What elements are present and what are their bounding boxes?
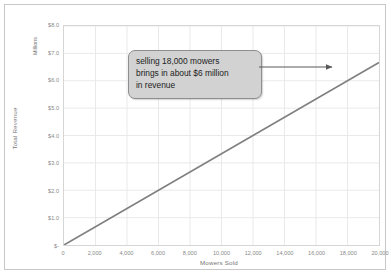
x-axis-title: Mowers Sold [59, 259, 379, 266]
x-axis-tick: 20,000 [363, 250, 391, 256]
y-axis-tick: $8.0 [39, 22, 59, 28]
x-axis-tick: 6,000 [141, 250, 175, 256]
y-axis-tick-labels: $-$1.0$2.0$3.0$4.0$5.0$6.0$7.0$8.0 [37, 5, 59, 275]
y-axis-title: Total Revenue [7, 5, 21, 251]
chart-frame: Total Revenue Millions $-$1.0$2.0$3.0$4.… [4, 4, 386, 270]
y-axis-tick: $6.0 [39, 77, 59, 83]
callout-line-3: in revenue [136, 80, 254, 92]
y-axis-tick: $7.0 [39, 50, 59, 56]
y-axis-tick: $2.0 [39, 188, 59, 194]
x-axis-tick: 12,000 [236, 250, 270, 256]
y-axis-tick: $3.0 [39, 160, 59, 166]
x-axis-tick: 16,000 [300, 250, 334, 256]
x-axis-tick: 2,000 [78, 250, 112, 256]
y-axis-tick: $4.0 [39, 133, 59, 139]
x-axis-tick: 0 [46, 250, 80, 256]
callout-line-2: brings in about $6 million [136, 68, 254, 80]
y-axis-title-label: Total Revenue [11, 107, 18, 149]
x-axis-tick: 18,000 [331, 250, 365, 256]
callout-line-1: selling 18,000 mowers [136, 56, 254, 68]
annotation-callout: selling 18,000 mowers brings in about $6… [128, 50, 262, 99]
x-axis-tick: 4,000 [109, 250, 143, 256]
x-axis-tick: 10,000 [205, 250, 239, 256]
x-axis-tick: 8,000 [173, 250, 207, 256]
y-axis-tick: $1.0 [39, 215, 59, 221]
y-axis-tick: $5.0 [39, 105, 59, 111]
x-axis-tick: 14,000 [268, 250, 302, 256]
y-axis-tick: $- [39, 243, 59, 249]
